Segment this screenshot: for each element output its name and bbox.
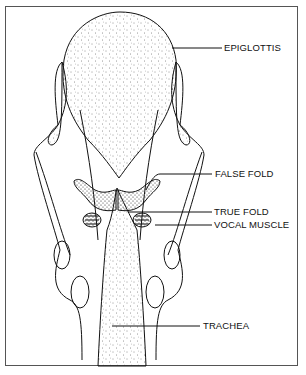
label-true-fold: TRUE FOLD bbox=[214, 206, 269, 217]
vocal-muscle-left bbox=[83, 213, 101, 227]
label-false-fold: FALSE FOLD bbox=[215, 168, 274, 179]
vocal-muscle-right bbox=[133, 213, 151, 227]
epiglottis-shape bbox=[63, 12, 176, 178]
false-fold-left bbox=[74, 179, 116, 210]
label-trachea: TRACHEA bbox=[203, 320, 249, 331]
label-vocal-muscle: VOCAL MUSCLE bbox=[214, 219, 289, 230]
label-epiglottis: EPIGLOTTIS bbox=[224, 42, 281, 53]
larynx-diagram bbox=[0, 0, 306, 375]
